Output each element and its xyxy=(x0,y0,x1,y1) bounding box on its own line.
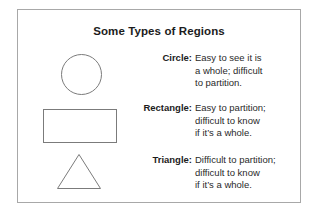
description-line: Easy to partition; xyxy=(195,102,300,115)
table-row: Circle: Easy to see it is a whole; diffi… xyxy=(18,49,300,99)
region-description-triangle: Difficult to partition; difficult to kno… xyxy=(195,154,300,192)
description-line: Difficult to partition; xyxy=(195,154,300,167)
description-line: difficult to know xyxy=(195,167,300,180)
table-row: Triangle: Difficult to partition; diffic… xyxy=(18,151,300,201)
region-label-triangle: Triangle: xyxy=(110,154,192,165)
circle-shape xyxy=(61,54,102,95)
region-label-circle: Circle: xyxy=(110,52,192,63)
description-line: if it’s a whole. xyxy=(195,179,300,192)
description-line: difficult to know xyxy=(195,115,300,128)
table-row: Rectangle: Easy to partition; difficult … xyxy=(18,99,300,149)
description-line: to partition. xyxy=(195,77,300,90)
triangle-shape xyxy=(56,153,102,190)
description-line: a whole; difficult xyxy=(195,65,300,78)
figure-title: Some Types of Regions xyxy=(18,25,300,37)
region-description-rectangle: Easy to partition; difficult to know if … xyxy=(195,102,300,140)
region-description-circle: Easy to see it is a whole; difficult to … xyxy=(195,52,300,90)
region-label-rectangle: Rectangle: xyxy=(110,102,192,113)
description-line: if it’s a whole. xyxy=(195,127,300,140)
description-line: Easy to see it is xyxy=(195,52,300,65)
rectangle-shape xyxy=(43,109,117,143)
figure-frame: Some Types of Regions Circle: Easy to se… xyxy=(17,9,301,203)
